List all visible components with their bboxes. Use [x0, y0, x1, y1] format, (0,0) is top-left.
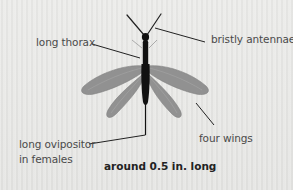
wings-leader-line	[196, 103, 214, 125]
antennae-icon	[127, 14, 161, 35]
ovipositor-leader-line	[89, 135, 146, 144]
antennae-leader-line	[155, 28, 205, 42]
thorax-leader-line	[92, 44, 140, 58]
label-four-wings: four wings	[199, 131, 253, 146]
size-caption: around 0.5 in. long	[104, 160, 216, 172]
label-bristly-antennae: bristly antennae	[211, 32, 293, 47]
label-long-thorax: long thorax	[36, 35, 95, 50]
insect-diagram: long thorax bristly antennae four wings …	[0, 0, 293, 190]
body-icon	[141, 33, 149, 105]
label-ovipositor-line1: long ovipositor	[19, 137, 95, 152]
label-ovipositor-line2: in females	[19, 152, 73, 167]
